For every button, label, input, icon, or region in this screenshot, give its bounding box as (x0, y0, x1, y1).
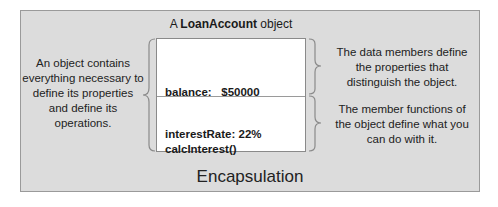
right-brace-data-members-icon (308, 38, 324, 95)
object-title: A LoanAccount object (156, 17, 306, 31)
loanaccount-object-box: balance: $50000 interestRate: 22% calcIn… (156, 38, 306, 152)
member-function-calcinterest: calcInterest() (165, 143, 237, 155)
data-members-description: The data members define the properties t… (330, 45, 474, 90)
diagram-caption: Encapsulation (20, 167, 480, 187)
title-suffix: object (257, 17, 292, 31)
title-prefix: A (170, 17, 181, 31)
member-functions-description: The member functions of the object defin… (330, 102, 474, 147)
class-name: LoanAccount (180, 17, 257, 31)
members-divider (157, 96, 305, 97)
object-description: An object contains everything necessary … (22, 56, 144, 131)
right-brace-member-functions-icon (308, 95, 324, 152)
